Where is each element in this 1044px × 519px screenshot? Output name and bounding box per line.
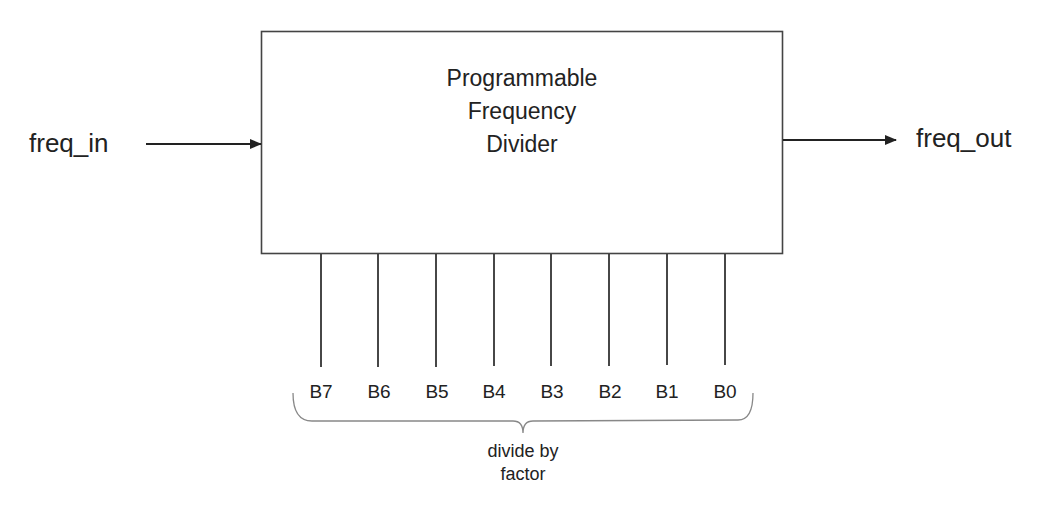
bit-lines: [321, 254, 725, 367]
group-label-line-2: factor: [423, 463, 623, 486]
group-label: divide by factor: [423, 440, 623, 486]
bit-label-b1: B1: [655, 381, 678, 403]
bit-label-b6: B6: [367, 381, 390, 403]
bit-label-b5: B5: [425, 381, 448, 403]
block-title-line-3: Divider: [261, 128, 783, 161]
group-brace: [293, 393, 753, 433]
block-title-line-2: Frequency: [261, 95, 783, 128]
block-title: Programmable Frequency Divider: [261, 62, 783, 161]
bit-label-b4: B4: [482, 381, 505, 403]
bit-label-b0: B0: [713, 381, 736, 403]
bit-label-b7: B7: [309, 381, 332, 403]
input-label: freq_in: [29, 128, 109, 159]
group-label-line-1: divide by: [423, 440, 623, 463]
bit-label-b2: B2: [598, 381, 621, 403]
output-label: freq_out: [916, 123, 1011, 154]
bit-label-b3: B3: [540, 381, 563, 403]
block-title-line-1: Programmable: [261, 62, 783, 95]
